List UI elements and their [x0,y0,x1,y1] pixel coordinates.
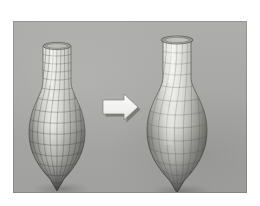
vase-transformation-illustration [13,21,247,193]
left-vase-rim-inner [47,44,68,49]
figure-root [0,0,260,206]
render-panel [13,21,247,193]
right-vase-rim-inner [165,37,189,42]
